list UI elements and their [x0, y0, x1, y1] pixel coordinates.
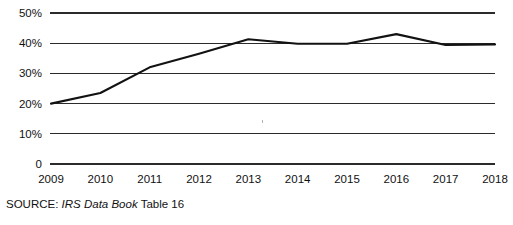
y-axis-tick-label: 0 — [36, 158, 42, 170]
x-axis-tick-label: 2017 — [433, 173, 459, 185]
x-axis-tick-label: 2015 — [334, 173, 360, 185]
x-axis-tick-label: 2010 — [88, 173, 114, 185]
line-chart-svg: 010%20%30%40%50% 20092010201120122013201… — [0, 0, 513, 196]
x-axis-tick-label: 2009 — [38, 173, 64, 185]
data-series-line — [51, 34, 495, 103]
page-speck — [262, 120, 263, 123]
source-suffix: Table 16 — [138, 198, 184, 210]
x-axis-tick-label: 2018 — [482, 173, 508, 185]
x-axis-tick-label: 2014 — [285, 173, 311, 185]
y-axis-tick-label: 10% — [19, 128, 42, 140]
gridlines-group — [50, 13, 495, 164]
source-prefix: SOURCE: — [6, 198, 62, 210]
x-axis-tick-label: 2012 — [186, 173, 212, 185]
chart-plot-area: 010%20%30%40%50% 20092010201120122013201… — [0, 0, 513, 196]
x-axis-tick-label: 2016 — [384, 173, 410, 185]
x-axis-tick-label: 2013 — [236, 173, 262, 185]
x-axis-tick-label: 2011 — [137, 173, 162, 185]
x-axis-tick-labels: 2009201020112012201320142015201620172018 — [38, 173, 508, 185]
chart-figure: 010%20%30%40%50% 20092010201120122013201… — [0, 0, 513, 225]
y-axis-tick-label: 50% — [19, 7, 42, 19]
source-note: SOURCE: IRS Data Book Table 16 — [6, 197, 184, 211]
source-emphasis: IRS Data Book — [62, 198, 138, 210]
y-axis-tick-label: 40% — [19, 37, 42, 49]
y-axis-tick-label: 30% — [19, 67, 42, 79]
y-axis-tick-labels: 010%20%30%40%50% — [19, 7, 42, 170]
y-axis-tick-label: 20% — [19, 98, 42, 110]
